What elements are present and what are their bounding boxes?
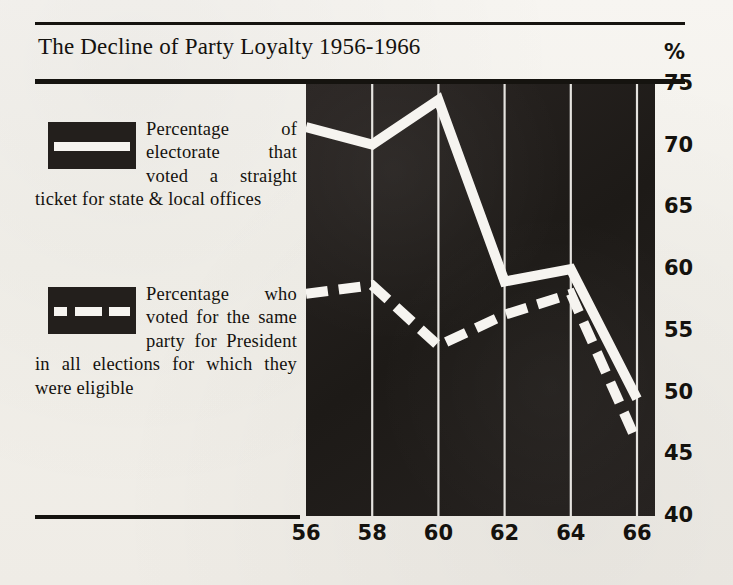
chart-figure: The Decline of Party Loyalty 1956-1966 %…: [0, 0, 733, 585]
x-tick-58: 58: [358, 523, 387, 544]
dashed-line-swatch: [48, 287, 136, 334]
y-tick-55: 55: [664, 320, 693, 341]
y-tick-45: 45: [664, 443, 693, 464]
x-tick-56: 56: [291, 523, 320, 544]
top-rule: [35, 22, 685, 25]
percent-axis-symbol: %: [664, 40, 685, 64]
series-line-solid: [306, 100, 637, 399]
series-lines: [306, 100, 637, 442]
y-tick-40: 40: [664, 505, 693, 526]
solid-line-glyph: [54, 142, 130, 151]
y-tick-75: 75: [664, 73, 693, 94]
bottom-rule: [35, 515, 300, 519]
x-tick-60: 60: [424, 523, 453, 544]
y-tick-50: 50: [664, 382, 693, 403]
legend-item-solid: Percentage of electorate that voted a st…: [35, 118, 297, 212]
x-tick-66: 66: [622, 523, 651, 544]
page-title: The Decline of Party Loyalty 1956-1966: [38, 34, 421, 60]
dashed-line-glyph: [54, 307, 130, 316]
y-tick-65: 65: [664, 196, 693, 217]
y-tick-60: 60: [664, 258, 693, 279]
legend-item-dashed: Percentage who voted for the same party …: [35, 283, 297, 400]
solid-line-swatch: [48, 122, 136, 169]
gridlines: [372, 84, 637, 516]
y-tick-70: 70: [664, 135, 693, 156]
plot-area: [306, 84, 655, 516]
plot-svg: [306, 84, 655, 516]
x-tick-62: 62: [490, 523, 519, 544]
x-tick-64: 64: [556, 523, 585, 544]
